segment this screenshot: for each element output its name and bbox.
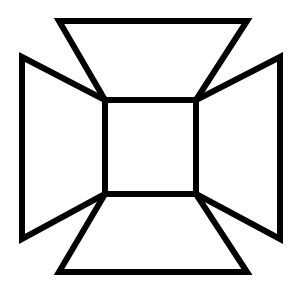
center-square: [105, 100, 196, 194]
geometric-figure: [0, 0, 297, 291]
